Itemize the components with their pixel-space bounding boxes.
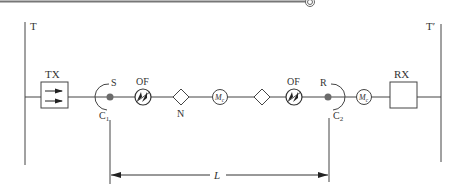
receive-point-label: R (320, 77, 327, 88)
terminal-t-prime: T′ (426, 20, 441, 162)
connector-c2-label: C2 (333, 110, 344, 123)
fiber-1-label: OF (136, 76, 149, 87)
transmitter-label: TX (45, 68, 60, 80)
connector-c1-label: C1 (99, 110, 110, 123)
fiber-link-diagram: T T′ TX C1 S OF N Mc (0, 0, 457, 196)
length-dimension: L (110, 118, 329, 184)
optical-fiber-1: OF (135, 76, 151, 105)
node-n-label: N (177, 108, 184, 119)
connector-c1: C1 (95, 84, 110, 123)
fiber-2-label: OF (287, 76, 300, 87)
optical-fiber-2: OF (286, 76, 302, 105)
element-mc-1: Mc (213, 90, 228, 105)
dot-icon (325, 94, 332, 101)
terminal-t: T (25, 20, 37, 165)
diamond-icon (254, 89, 270, 105)
terminal-t-prime-label: T′ (426, 20, 435, 32)
connector-c2: C2 (331, 84, 345, 123)
header-rule (0, 0, 315, 7)
source-point-label: S (111, 77, 117, 88)
node-diamond-2 (254, 89, 270, 105)
receiver-label: RX (394, 68, 409, 80)
node-n: N (173, 89, 189, 119)
receiver-box: RX (390, 68, 417, 108)
terminal-t-label: T (30, 20, 37, 32)
element-mc-2: Mc (357, 90, 372, 105)
diamond-icon (173, 89, 189, 105)
length-label: L (213, 169, 220, 181)
dot-icon (107, 94, 114, 101)
transmitter-box: TX (41, 68, 68, 108)
